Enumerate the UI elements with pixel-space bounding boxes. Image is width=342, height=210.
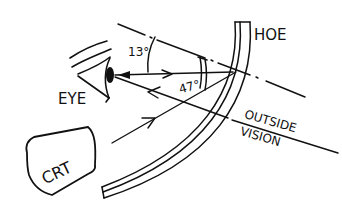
eye-pupil bbox=[106, 67, 114, 83]
arrowhead-left-icon bbox=[118, 71, 130, 79]
diagram-canvas: HOE EYE 13° 47° CRT bbox=[0, 0, 342, 210]
hoe-combiner bbox=[102, 22, 250, 198]
hoe-label: HOE bbox=[254, 26, 287, 44]
crt-label: CRT bbox=[39, 158, 75, 188]
eye-label: EYE bbox=[58, 90, 86, 108]
angle-13-label: 13° bbox=[128, 45, 149, 59]
image-ray-arrow bbox=[115, 70, 233, 79]
